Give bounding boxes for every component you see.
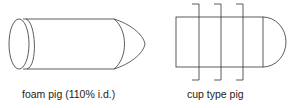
foam-pig-label: foam pig (110% i.d.) [22,88,115,100]
cup-pig-body [176,17,263,67]
cup-pig-cup-3 [236,4,243,80]
cup-pig-cup-1 [192,4,199,80]
foam-pig-rear-rim [26,19,34,69]
cup-pig-nose [263,17,286,67]
foam-pig-nose-inner [114,19,125,69]
foam-pig-rear-face [9,19,29,69]
foam-pig-drawing [9,19,145,69]
cup-pig-drawing [176,4,286,80]
cup-pig-label: cup type pig [187,88,244,100]
foam-pig-nose [114,19,145,69]
cup-pig-cup-2 [214,4,221,80]
